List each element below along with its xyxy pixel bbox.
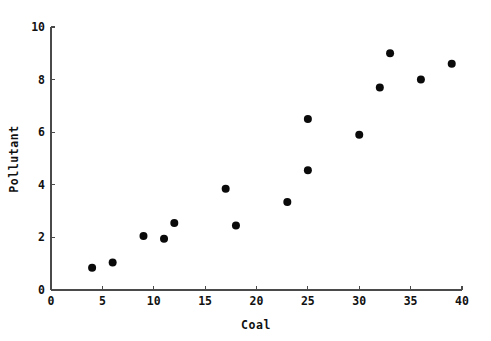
x-tick-label: 40: [455, 294, 469, 308]
x-tick-label: 0: [48, 294, 55, 308]
scatter-plot-figure: 0510152025303540 0246810 Coal Pollutant: [0, 0, 491, 341]
x-tick-label: 30: [352, 294, 366, 308]
data-point: [304, 115, 312, 123]
x-tick-label: 10: [147, 294, 161, 308]
plot-canvas: 0510152025303540 0246810 Coal Pollutant: [0, 0, 491, 341]
data-point: [304, 166, 312, 174]
data-point: [222, 185, 230, 193]
y-tick-label: 0: [38, 283, 45, 297]
y-tick-label: 8: [38, 73, 45, 87]
data-point: [376, 83, 384, 91]
data-point: [386, 49, 394, 57]
x-axis-title: Coal: [241, 318, 271, 332]
x-tick-label: 5: [99, 294, 106, 308]
data-point: [355, 131, 363, 139]
y-tick-label: 6: [38, 125, 45, 139]
x-tick-label: 35: [404, 294, 418, 308]
y-axis-title: Pollutant: [7, 125, 21, 193]
x-tick-label: 15: [198, 294, 212, 308]
y-tick-label: 2: [38, 230, 45, 244]
x-tick-label: 20: [250, 294, 264, 308]
data-point: [170, 219, 178, 227]
data-points-group: [88, 49, 456, 271]
data-point: [139, 232, 147, 240]
data-point: [109, 258, 117, 266]
data-point: [448, 60, 456, 68]
x-axis-ticks: 0510152025303540: [48, 286, 469, 308]
data-point: [232, 222, 240, 230]
y-tick-label: 10: [31, 20, 45, 34]
data-point: [160, 235, 168, 243]
data-point: [417, 76, 425, 84]
x-tick-label: 25: [301, 294, 315, 308]
y-tick-label: 4: [38, 178, 45, 192]
data-point: [88, 264, 96, 272]
axes-group: [51, 27, 462, 290]
data-point: [283, 198, 291, 206]
